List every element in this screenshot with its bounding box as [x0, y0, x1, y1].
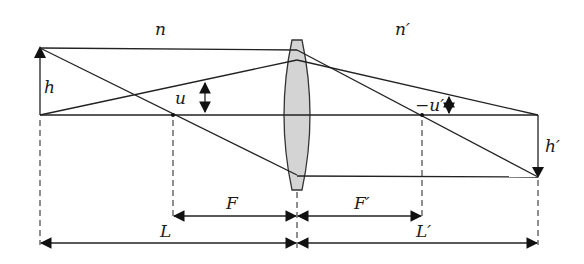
diagram-canvas: n n′ h h′ u −u′ F F′ L L′ — [0, 0, 584, 264]
ray-parallel-in — [40, 48, 297, 50]
ray-focal-in — [40, 48, 297, 175]
label-h: h — [44, 77, 55, 97]
label-n-prime: n′ — [395, 19, 410, 39]
ray-focal-out — [297, 176, 538, 177]
label-F-prime: F′ — [353, 193, 370, 213]
label-n: n — [155, 19, 166, 39]
front-focal-point — [171, 113, 175, 117]
ray-marginal-in — [40, 60, 297, 115]
label-h-prime: h′ — [545, 136, 560, 156]
lens-diagram: n n′ h h′ u −u′ F F′ L L′ — [0, 0, 584, 264]
label-L-prime: L′ — [415, 221, 431, 241]
label-minus-u-prime: −u′ — [415, 95, 444, 115]
label-L: L — [159, 221, 171, 241]
label-u: u — [175, 88, 186, 108]
label-F: F — [225, 193, 239, 213]
